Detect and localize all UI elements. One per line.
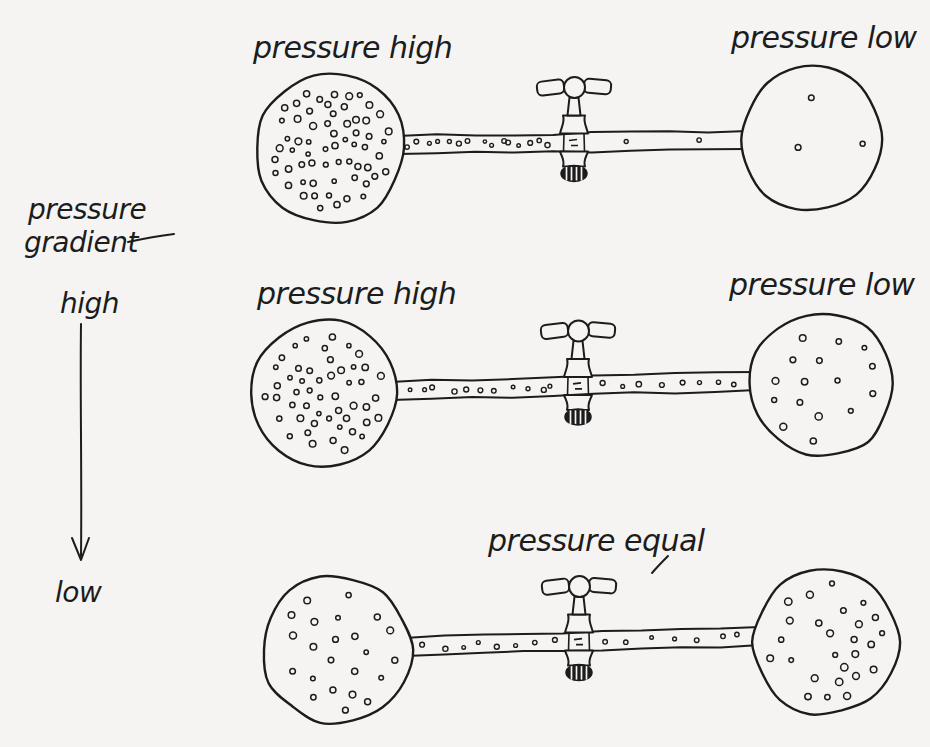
stage-1-tube-molecules (405, 138, 701, 149)
stage2-left-label: pressure high (256, 276, 456, 311)
stage3-center-label: pressure equal (487, 523, 706, 558)
stopcock-valve (536, 77, 611, 182)
pressure-gradient-legend: pressure gradient high low (24, 193, 174, 609)
legend-title-line2: gradient (24, 226, 139, 259)
gradient-arrow (72, 324, 89, 560)
gradient-arrow-shaft (81, 324, 82, 556)
legend-title-line1: pressure (27, 193, 146, 226)
stage-2-apparatus (251, 314, 893, 467)
stopcock-valve (540, 320, 615, 425)
stage-1-left-bulb (257, 74, 404, 223)
stopcock-valve (541, 576, 616, 681)
stage-3-apparatus (264, 569, 900, 723)
sketch-page: pressure gradient high low pressure high… (0, 0, 930, 747)
stage-3-right-bulb (752, 569, 900, 714)
legend-high-label: high (60, 287, 119, 320)
stage-2-right-bulb (750, 314, 893, 456)
pressure-diagram: pressure gradient high low pressure high… (0, 0, 930, 747)
apparatus-drawings (251, 66, 900, 724)
stage-3-left-bulb (264, 576, 413, 724)
stage-2-left-bulb (251, 320, 397, 467)
stage1-right-label: pressure low (730, 20, 918, 55)
stage2-right-label: pressure low (728, 267, 916, 302)
legend-low-label: low (55, 576, 102, 609)
stage3-label-leader (652, 556, 668, 573)
stage-1-right-bulb (741, 66, 882, 210)
stage1-left-label: pressure high (252, 30, 452, 65)
stage-1-apparatus (257, 66, 882, 223)
